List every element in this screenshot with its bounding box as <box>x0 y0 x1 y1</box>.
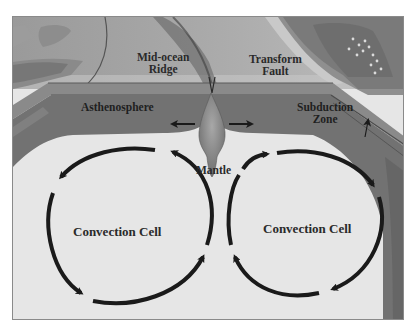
label-transform-fault: Transform Fault <box>249 53 302 77</box>
label-asthenosphere: Asthenosphere <box>81 101 154 113</box>
label-mid-ocean-ridge: Mid-ocean Ridge <box>137 51 189 75</box>
diagram-frame: Mid-ocean Ridge Transform Fault Asthenos… <box>12 16 404 320</box>
transform-fault-line1: Transform <box>249 53 302 65</box>
transform-fault-line2: Fault <box>249 65 302 77</box>
mid-ocean-ridge-line1: Mid-ocean <box>137 51 189 63</box>
mid-ocean-ridge-line2: Ridge <box>137 63 189 75</box>
label-convection-cell-right: Convection Cell <box>263 222 351 236</box>
label-convection-cell-left: Convection Cell <box>73 225 161 239</box>
label-subduction-zone: Subduction Zone <box>297 101 353 125</box>
subduction-zone-line2: Zone <box>297 113 353 125</box>
label-mantle: Mantle <box>196 164 231 176</box>
subduction-zone-line1: Subduction <box>297 101 353 113</box>
